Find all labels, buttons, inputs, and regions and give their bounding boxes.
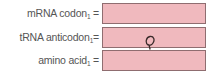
amino-acid-row: amino acid1 = [0,50,212,71]
mrna-codon-input[interactable] [102,3,206,24]
trna-anticodon-label: tRNA anticodon1= [19,31,99,44]
amino-acid-label: amino acid1 = [38,54,99,67]
trna-anticodon-row: tRNA anticodon1= [0,27,212,48]
handwritten-loop-cursor-icon [145,35,156,50]
mrna-codon-row: mRNA codon1 = [0,3,212,24]
amino-acid-input[interactable] [102,50,206,71]
mrna-codon-label: mRNA codon1 = [27,7,99,20]
